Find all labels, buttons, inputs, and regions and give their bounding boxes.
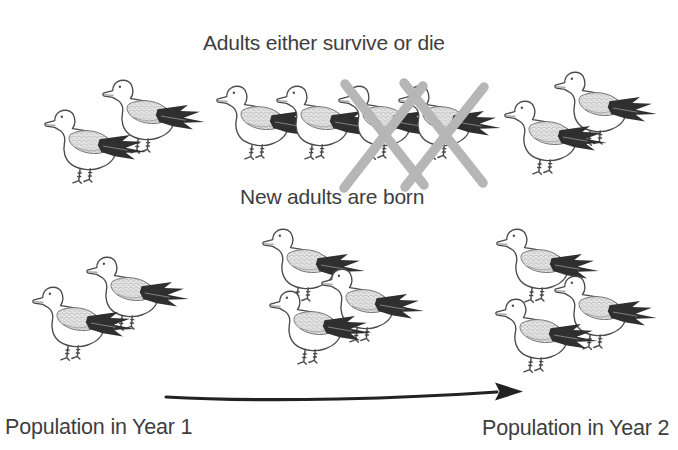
- year-transition-arrow: [166, 383, 523, 401]
- arrow-head: [495, 383, 523, 401]
- population-diagram: Adults either survive or die New adults …: [0, 0, 678, 450]
- diagram-canvas: [0, 0, 678, 450]
- caption-new-adults-born: New adults are born: [240, 185, 424, 209]
- bird-layer: [33, 72, 657, 372]
- caption-survive-or-die: Adults either survive or die: [203, 31, 445, 55]
- label-population-year-1: Population in Year 1: [5, 415, 192, 440]
- label-population-year-2: Population in Year 2: [482, 416, 669, 441]
- arrow-shaft: [166, 392, 497, 400]
